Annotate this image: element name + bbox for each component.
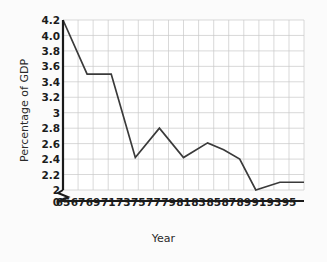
x-axis-title: Year [0,232,327,245]
y-tick-label: 4.0 [0,31,60,41]
y-tick-label: 0 [0,197,60,207]
chart-container: 4.2 4.0 3.8 3.6 3.4 3.2 3 2.8 2.6 2.4 2.… [0,0,327,262]
y-tick-label: 2.2 [0,170,60,180]
y-tick-label: 4.2 [0,15,60,25]
y-axis-title: Percentage of GDP [18,51,31,171]
x-tick-label: 95 [280,196,298,208]
y-tick-label: 2 [0,185,60,195]
